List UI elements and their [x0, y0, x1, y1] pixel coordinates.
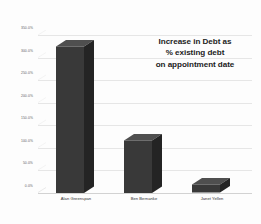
- bar-3d-shape: [192, 178, 230, 193]
- y-axis-tick-label: 50.0%: [23, 162, 33, 165]
- y-axis-tick-label: 0.0%: [25, 185, 33, 188]
- bar-3d-shape: [124, 134, 162, 193]
- chart-title-line-1: Increase in Debt as: [139, 36, 251, 47]
- bar-ben-bernanke[interactable]: [124, 140, 152, 193]
- x-axis-label-janet-yellen: Janet Yellen: [176, 197, 248, 201]
- y-axis-tick-label: 200.0%: [21, 95, 33, 98]
- y-axis: 350.0% 300.0% 250.0% 200.0% 150.0% 100.0…: [0, 24, 36, 199]
- y-axis-tick-label: 300.0%: [21, 50, 33, 53]
- y-axis-tick-label: 100.0%: [21, 140, 33, 143]
- bar-3d-shape: [56, 40, 94, 193]
- axis-baseline: [38, 193, 252, 194]
- y-axis-tick-label: 150.0%: [21, 117, 33, 120]
- chart-title-line-2: % existing debt: [139, 47, 251, 58]
- y-axis-tick-label: 350.0%: [21, 27, 33, 30]
- bar-chart: 350.0% 300.0% 250.0% 200.0% 150.0% 100.0…: [0, 0, 261, 224]
- y-axis-tick-label: 250.0%: [21, 72, 33, 75]
- chart-title: Increase in Debt as % existing debt on a…: [139, 36, 251, 70]
- bar-alan-greenspan[interactable]: [56, 46, 84, 193]
- x-axis-label-alan-greenspan: Alan Greenspan: [40, 197, 112, 201]
- bar-janet-yellen[interactable]: [192, 185, 220, 193]
- x-axis-label-ben-bernanke: Ben Bernanke: [108, 197, 180, 201]
- chart-title-line-3: on appointment date: [139, 59, 251, 70]
